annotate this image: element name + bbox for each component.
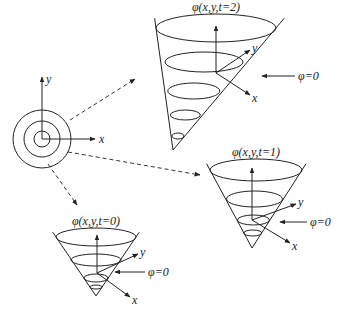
zero-level-label: φ=0: [310, 215, 331, 229]
y-axis-label: y: [297, 195, 304, 209]
zero-level-slice: [168, 83, 220, 99]
x-axis-label: x: [291, 239, 298, 253]
level-slice: [165, 52, 243, 72]
cone-side-right: [173, 18, 284, 150]
x-axis-label: x: [251, 91, 258, 105]
cone-top-ellipse: [56, 228, 136, 246]
level-set-diagram: yx yxφ(x,y,t=2)φ=0yxφ(x,y,t=1)φ=0yxφ(x,y…: [0, 0, 339, 309]
arrow-to-t2: [70, 79, 135, 120]
level-slice: [90, 285, 102, 289]
y-axis-label: y: [251, 41, 258, 55]
cone-title: φ(x,y,t=1): [232, 145, 280, 159]
level-slice: [227, 191, 283, 207]
y-axis: [252, 204, 296, 220]
cone-side-left: [155, 18, 173, 150]
y-axis-label: y: [45, 72, 52, 86]
cone-side-left: [53, 232, 96, 296]
x-axis-label: x: [98, 132, 105, 146]
x-axis: [216, 73, 250, 95]
zero-level-label: φ=0: [148, 265, 169, 279]
cone-t0: yxφ(x,y,t=0)φ=0: [53, 214, 169, 307]
cone-side-right: [96, 232, 139, 296]
y-axis-label: y: [139, 245, 146, 259]
level-slice: [172, 133, 184, 139]
level-slice: [71, 254, 121, 266]
level-slice: [244, 230, 262, 236]
arrow-to-t0: [48, 164, 77, 205]
arrow-to-t1: [68, 152, 200, 175]
cones: yxφ(x,y,t=2)φ=0yxφ(x,y,t=1)φ=0yxφ(x,y,t=…: [53, 0, 331, 307]
cone-title: φ(x,y,t=2): [192, 0, 240, 14]
level-slice: [170, 110, 200, 120]
zero-level-label: φ=0: [298, 69, 319, 83]
diagram-canvas: yx yxφ(x,y,t=2)φ=0yxφ(x,y,t=1)φ=0yxφ(x,y…: [0, 0, 339, 309]
cone-top-ellipse: [210, 159, 302, 181]
x-axis: [97, 273, 130, 297]
cone-t2: yxφ(x,y,t=2)φ=0: [155, 0, 319, 150]
cone-t1: yxφ(x,y,t=1)φ=0: [207, 145, 331, 253]
x-axis-label: x: [131, 293, 138, 307]
contour-plot: yx: [13, 72, 105, 168]
cone-title: φ(x,y,t=0): [72, 214, 120, 228]
